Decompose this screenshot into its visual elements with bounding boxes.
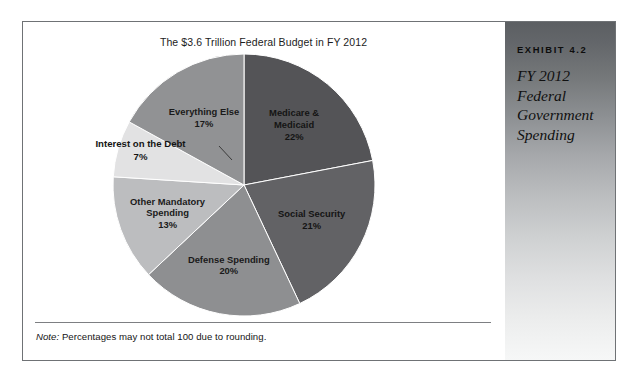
note-divider [35, 322, 491, 323]
exhibit-caption-line-2: Federal [517, 86, 609, 106]
exhibit-caption-line-3: Government [517, 105, 609, 125]
chart-panel: The $3.6 Trillion Federal Budget in FY 2… [23, 22, 504, 360]
pie-slices [113, 54, 375, 316]
exhibit-caption: FY 2012 Federal Government Spending [517, 66, 609, 144]
note-body: Percentages may not total 100 due to rou… [59, 331, 266, 342]
exhibit-frame: The $3.6 Trillion Federal Budget in FY 2… [22, 21, 616, 361]
exhibit-caption-line-1: FY 2012 [517, 66, 609, 86]
chart-title: The $3.6 Trillion Federal Budget in FY 2… [23, 36, 504, 48]
note-lead: Note: [36, 331, 59, 342]
callout-label-line-2: 7% [78, 150, 203, 163]
exhibit-caption-line-4: Spending [517, 125, 609, 145]
exhibit-sidebar: EXHIBIT 4.2 FY 2012 Federal Government S… [505, 22, 615, 360]
slice-callout-interest-on-the-debt: Interest on the Debt 7% [78, 137, 203, 163]
exhibit-number: EXHIBIT 4.2 [517, 44, 587, 55]
pie-chart-svg: Medicare &Medicaid22%Social Security21%D… [99, 52, 429, 318]
pie-chart: Medicare &Medicaid22%Social Security21%D… [23, 52, 504, 322]
callout-label-line-1: Interest on the Debt [78, 137, 203, 150]
note-text: Note: Percentages may not total 100 due … [36, 331, 486, 342]
